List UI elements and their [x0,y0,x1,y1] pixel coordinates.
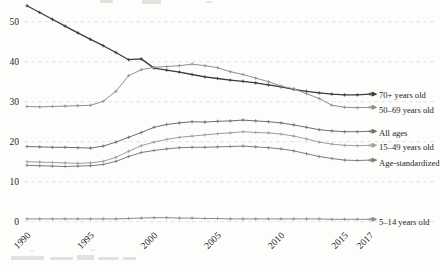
cropped-caption-artifact [50,257,73,260]
series-line-50-69 [27,64,370,108]
cropped-text-artifact [100,0,113,3]
y-tick-label: 10 [10,177,20,187]
cropped-caption-artifact [30,250,34,252]
series-arrow-all-ages [370,129,377,133]
series-markers-70plus [25,4,371,97]
cropped-caption-artifact [98,257,119,260]
y-tick-label: 20 [10,137,20,147]
chart: 010203040501990199520002005201020152017 … [0,0,440,266]
cropped-caption-artifact [77,255,94,260]
y-tick-label: 40 [10,57,20,67]
y-tick-label: 0 [14,217,19,227]
cropped-caption-artifact [123,257,136,260]
x-tick-label: 1995 [75,230,96,251]
series-arrow-5-14 [370,217,377,221]
series-arrow-50-69 [370,105,377,109]
x-tick-label: 2015 [330,230,351,251]
series-label-5-14: 5–14 years old [379,217,430,227]
series-label-50-69: 50–69 years old [379,105,434,115]
x-tick-label: 2000 [139,230,160,251]
series-arrow-15-49 [370,143,377,147]
series-line-70plus [27,6,370,95]
series-label-all-ages: All ages [379,128,407,138]
series-markers-50-69 [25,62,371,109]
x-tick-label: 2010 [266,230,287,251]
series-label-15-49: 15–49 years old [379,142,434,152]
cropped-caption-artifact [90,249,95,251]
cropped-text-artifact [206,1,212,3]
series-markers-all-ages [25,118,371,149]
series-line-all-ages [27,120,370,148]
series-arrow-70plus [370,92,377,96]
x-tick-label: 2017 [355,230,376,251]
series-arrow-age-standardized [370,158,377,162]
series-label-70plus: 70+ years old [379,90,426,100]
cropped-caption-artifact [11,256,44,260]
line-plot: 010203040501990199520002005201020152017 [0,0,440,266]
series-label-age-standardized: Age-standardized [379,158,440,168]
cropped-text-artifact [142,0,161,4]
x-tick-label: 2005 [202,230,223,251]
y-tick-label: 50 [10,17,20,27]
x-tick-label: 1990 [12,230,33,251]
y-tick-label: 30 [10,97,20,107]
